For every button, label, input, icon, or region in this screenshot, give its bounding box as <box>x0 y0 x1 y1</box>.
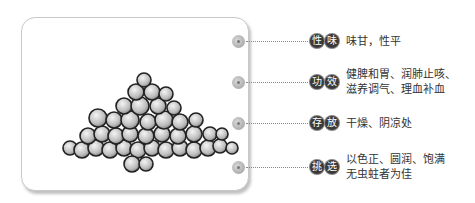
info-row-effect: 功 效 健脾和胃、润肺止咳、 滋养调气、理血补血 <box>232 72 456 92</box>
bullet-dot-icon <box>232 35 245 48</box>
bullet-dot-icon <box>232 161 245 174</box>
seed-pile-illustration <box>62 68 242 178</box>
dotted-connector <box>246 82 310 83</box>
label-badge: 存 放 <box>310 116 340 130</box>
dotted-connector <box>246 167 310 168</box>
label-badge: 挑 选 <box>310 160 340 174</box>
illustration-card <box>21 17 249 191</box>
info-text: 味甘，性平 <box>346 34 401 49</box>
info-row-taste: 性 味 味甘，性平 <box>232 31 401 51</box>
bullet-dot-icon <box>232 117 245 130</box>
label-badge: 功 效 <box>310 75 340 89</box>
info-text: 健脾和胃、润肺止咳、 滋养调气、理血补血 <box>346 67 456 97</box>
info-text: 以色正、圆润、饱满 无虫蛀者为佳 <box>346 152 445 182</box>
info-row-selection: 挑 选 以色正、圆润、饱满 无虫蛀者为佳 <box>232 157 445 177</box>
bullet-dot-icon <box>232 76 245 89</box>
info-row-storage: 存 放 干燥、阴凉处 <box>232 113 412 133</box>
dotted-connector <box>246 41 310 42</box>
label-badge: 性 味 <box>310 34 340 48</box>
info-text: 干燥、阴凉处 <box>346 116 412 131</box>
dotted-connector <box>246 123 310 124</box>
